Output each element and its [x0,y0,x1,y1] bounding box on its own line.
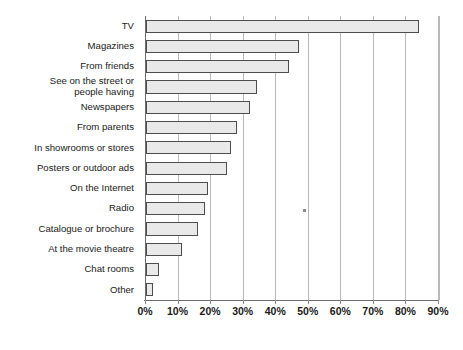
y-axis-label: Catalogue or brochure [0,224,134,235]
gridline-50 [308,16,309,300]
bar [146,20,419,33]
x-axis-tick-mark [243,300,244,304]
x-axis-tick-mark [275,300,276,304]
bar [146,101,250,114]
x-axis-tick-mark [438,300,439,304]
y-axis-label: Radio [0,203,134,214]
gridline-30 [243,16,244,300]
bar [146,40,299,53]
gridline-80 [405,16,406,300]
x-axis-tick-mark [210,300,211,304]
bar [146,222,198,235]
scan-artifact-dot [303,209,306,212]
gridline-90 [438,16,439,300]
x-axis-tick-mark [373,300,374,304]
bar [146,80,257,93]
x-axis-tick-label: 90% [418,305,458,317]
bar [146,141,231,154]
x-axis-tick-mark [308,300,309,304]
x-axis-label-group: 0%10%20%30%40%50%60%70%80%90% [0,305,463,325]
y-axis-label: Other [0,285,134,296]
gridline-60 [340,16,341,300]
gridline-10 [178,16,179,300]
x-axis-tick-mark [405,300,406,304]
plot-area [145,16,440,300]
y-axis-label: TV [0,21,134,32]
y-axis-label: See on the street or people having [0,76,134,97]
gridline-20 [210,16,211,300]
bar [146,263,159,276]
x-axis-tick-mark [145,300,146,304]
bar [146,121,237,134]
gridline-70 [373,16,374,300]
y-axis-label: Posters or outdoor ads [0,163,134,174]
bar [146,182,208,195]
bar [146,243,182,256]
y-axis-label: Newspapers [0,102,134,113]
y-axis-label: From parents [0,122,134,133]
x-axis-tick-mark [178,300,179,304]
bar [146,60,289,73]
bar [146,202,205,215]
x-axis-tick-mark [340,300,341,304]
gridline-40 [275,16,276,300]
bar [146,283,153,296]
y-axis-label: From friends [0,61,134,72]
y-axis-label: Magazines [0,41,134,52]
y-axis-label: Chat rooms [0,264,134,275]
y-axis-label: At the movie theatre [0,244,134,255]
y-axis-label-group: TVMagazinesFrom friendsSee on the street… [0,16,140,300]
x-axis-line [144,300,439,301]
y-axis-label: In showrooms or stores [0,143,134,154]
bar [146,162,227,175]
y-axis-label: On the Internet [0,183,134,194]
bar-chart: TVMagazinesFrom friendsSee on the street… [0,0,463,350]
